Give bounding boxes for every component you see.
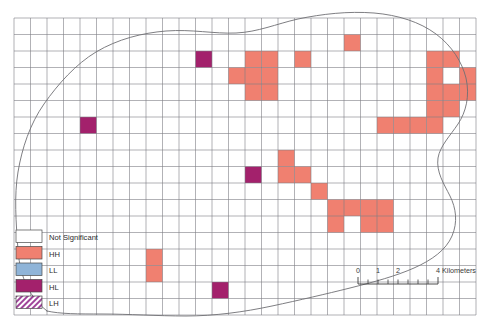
grid-cell-hh bbox=[344, 200, 361, 217]
grid-cell-hh bbox=[328, 200, 345, 217]
legend-label-lh: LH bbox=[49, 299, 59, 308]
grid-cell-hh bbox=[427, 101, 444, 118]
grid-cell-hh bbox=[295, 51, 312, 68]
grid-cell-hl bbox=[80, 117, 97, 134]
grid-cell-hh bbox=[410, 117, 427, 134]
grid-cell-hh bbox=[229, 68, 246, 85]
grid-cell-hh bbox=[443, 51, 460, 68]
grid-cell-hh bbox=[361, 216, 378, 233]
grid-cell-hh bbox=[295, 167, 312, 184]
legend-swatch-not-significant bbox=[16, 230, 42, 243]
grid-cell-hh bbox=[278, 167, 295, 184]
scale-tick-label: 2 bbox=[396, 266, 400, 275]
grid-cell-hh bbox=[377, 117, 394, 134]
grid-cell-hh bbox=[311, 183, 328, 200]
legend-swatch-hl bbox=[16, 280, 42, 293]
grid-cell-hh bbox=[427, 117, 444, 134]
grid-cell-hl bbox=[245, 167, 262, 184]
legend-label-ll: LL bbox=[49, 266, 57, 275]
map-canvas: Not SignificantHHLLHLLH 0124Kilometers bbox=[0, 0, 492, 322]
legend-label-hl: HL bbox=[49, 283, 59, 292]
legend-label-not-significant: Not Significant bbox=[49, 233, 99, 242]
grid-cell-hh bbox=[427, 84, 444, 101]
grid-cell-hh bbox=[278, 150, 295, 167]
grid-cell-hl bbox=[196, 51, 213, 68]
grid-cell-hh bbox=[262, 51, 279, 68]
grid-cell-hh bbox=[262, 84, 279, 101]
legend-label-hh: HH bbox=[49, 250, 60, 259]
grid-cell-hh bbox=[427, 68, 444, 85]
scale-tick-label: 0 bbox=[356, 266, 360, 275]
legend-swatch-ll bbox=[16, 263, 42, 276]
grid-cell-hh bbox=[262, 68, 279, 85]
grid-cell-hl bbox=[212, 282, 229, 299]
grid-cell-hh bbox=[443, 101, 460, 118]
grid-cell-hh bbox=[361, 200, 378, 217]
grid-cell-hh bbox=[377, 200, 394, 217]
grid-cell-hh bbox=[245, 51, 262, 68]
lisa-cluster-map-figure: Not SignificantHHLLHLLH 0124Kilometers bbox=[0, 0, 492, 322]
scale-tick-label: 4 bbox=[436, 266, 440, 275]
grid-cell-hh bbox=[328, 216, 345, 233]
grid-cell-hh bbox=[443, 84, 460, 101]
grid-cell-hh bbox=[245, 84, 262, 101]
grid-cell-hh bbox=[146, 266, 163, 283]
legend-swatch-lh bbox=[16, 296, 42, 309]
grid-cell-hh bbox=[394, 117, 411, 134]
grid-cell-hh bbox=[377, 216, 394, 233]
legend-swatch-hh bbox=[16, 247, 42, 260]
grid-cell-hh bbox=[245, 68, 262, 85]
scale-tick-label: 1 bbox=[376, 266, 380, 275]
grid-cell-hh bbox=[344, 35, 361, 52]
grid-cell-hh bbox=[460, 68, 477, 85]
grid-cell-hh bbox=[146, 249, 163, 266]
scale-units-label: Kilometers bbox=[442, 266, 476, 275]
grid-cell-hh bbox=[427, 51, 444, 68]
